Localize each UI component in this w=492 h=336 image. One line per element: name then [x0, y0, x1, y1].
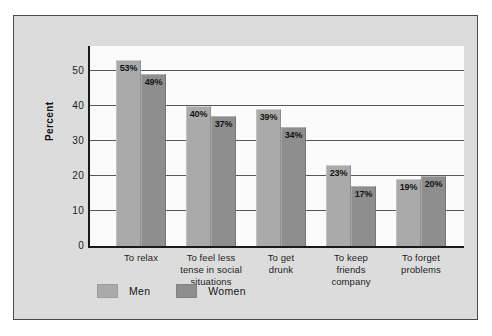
- bar-men: 19%: [396, 179, 421, 246]
- bar-women: 34%: [281, 127, 306, 246]
- y-tick-label: 50: [72, 64, 84, 75]
- legend-swatch: [97, 284, 118, 298]
- figure-panel: Percent 01020304050 53%49%40%37%39%34%23…: [13, 15, 478, 320]
- legend-label: Women: [208, 285, 246, 297]
- y-axis-line: [88, 46, 90, 248]
- bar-men: 40%: [186, 106, 211, 246]
- legend-label: Men: [129, 285, 150, 297]
- x-axis-label: To forgetproblems: [378, 252, 464, 276]
- screenshot-root: Percent 01020304050 53%49%40%37%39%34%23…: [0, 0, 492, 336]
- x-axis-label-line: To forget: [378, 252, 464, 264]
- bar-men: 53%: [116, 60, 141, 246]
- bar-men: 39%: [256, 109, 281, 246]
- bar-value-label: 53%: [117, 63, 140, 73]
- y-tick-label: 10: [72, 204, 84, 215]
- y-tick-label: 20: [72, 169, 84, 180]
- y-tick-label: 0: [78, 240, 84, 251]
- y-tick-label: 30: [72, 134, 84, 145]
- legend: MenWomen: [97, 284, 246, 298]
- y-tick-label: 40: [72, 99, 84, 110]
- bar-value-label: 49%: [142, 77, 165, 87]
- y-axis-title: Percent: [44, 102, 55, 142]
- bar-men: 23%: [326, 165, 351, 246]
- legend-item-women[interactable]: Women: [176, 284, 246, 298]
- bar-women: 37%: [211, 116, 236, 246]
- bar-value-label: 20%: [422, 179, 445, 189]
- bar-value-label: 40%: [187, 109, 210, 119]
- legend-item-men[interactable]: Men: [97, 284, 150, 298]
- bar-women: 49%: [141, 74, 166, 246]
- legend-swatch: [176, 284, 197, 298]
- bar-value-label: 19%: [397, 182, 420, 192]
- bar-value-label: 23%: [327, 168, 350, 178]
- bar-value-label: 34%: [282, 130, 305, 140]
- gridline: 50: [90, 70, 464, 71]
- x-axis-line: [88, 246, 464, 248]
- plot-area: 01020304050 53%49%40%37%39%34%23%17%19%2…: [88, 46, 464, 248]
- x-axis-label-line: problems: [378, 264, 464, 276]
- bar-value-label: 17%: [352, 189, 375, 199]
- bar-value-label: 37%: [212, 119, 235, 129]
- bar-women: 20%: [421, 176, 446, 246]
- x-axis-label-line: company: [308, 276, 394, 288]
- bar-women: 17%: [351, 186, 376, 246]
- bar-value-label: 39%: [257, 112, 280, 122]
